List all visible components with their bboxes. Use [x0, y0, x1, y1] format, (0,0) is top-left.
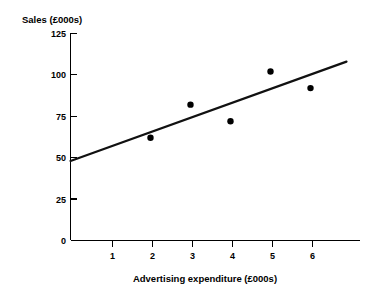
- x-axis-ticks: [113, 241, 313, 248]
- x-axis-tick-labels: 1 2 3 4 5 6: [110, 251, 315, 261]
- data-point: [147, 135, 153, 141]
- y-axis-ticks: [71, 34, 77, 241]
- x-tick-label: 6: [310, 251, 315, 261]
- x-tick-label: 5: [270, 251, 275, 261]
- scatter-chart: Sales (£000s) 125 100 75 50 25 0: [0, 0, 379, 296]
- x-tick-label: 1: [110, 251, 115, 261]
- x-tick-label: 4: [230, 251, 235, 261]
- chart-canvas: Sales (£000s) 125 100 75 50 25 0: [0, 0, 379, 296]
- y-tick-label: 100: [51, 70, 66, 80]
- y-tick-label: 75: [56, 112, 66, 122]
- x-tick-label: 2: [150, 251, 155, 261]
- y-tick-label: 25: [56, 195, 66, 205]
- y-axis-title: Sales (£000s): [22, 14, 82, 25]
- y-axis-tick-labels: 125 100 75 50 25 0: [51, 29, 66, 246]
- x-tick-label: 3: [190, 251, 195, 261]
- y-tick-label: 125: [51, 29, 66, 39]
- y-tick-label: 50: [56, 153, 66, 163]
- data-point: [307, 85, 313, 91]
- plot-area: [71, 62, 347, 161]
- y-tick-label: 0: [61, 236, 66, 246]
- data-point: [187, 101, 193, 107]
- regression-line: [71, 62, 347, 161]
- data-point: [267, 68, 273, 74]
- x-axis-title: Advertising expenditure (£000s): [133, 273, 277, 284]
- data-point: [227, 118, 233, 124]
